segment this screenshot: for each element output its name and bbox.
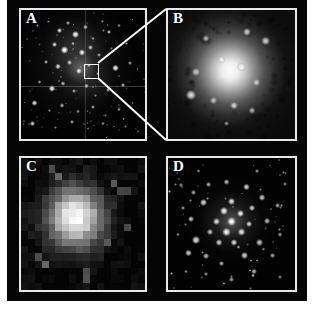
background-star bbox=[21, 26, 22, 27]
background-star bbox=[207, 192, 209, 194]
cluster-star bbox=[206, 182, 211, 187]
background-star bbox=[61, 70, 62, 71]
pixel-cell bbox=[62, 209, 69, 216]
star-point bbox=[47, 20, 50, 23]
pixel-cell bbox=[124, 268, 131, 275]
pixel-cell bbox=[138, 202, 145, 209]
background-star bbox=[26, 38, 27, 39]
pixel-cell bbox=[76, 224, 83, 231]
pixel-cell bbox=[90, 158, 97, 165]
panel-d[interactable]: D bbox=[166, 156, 297, 292]
background-star bbox=[256, 259, 259, 262]
pixel-cell bbox=[138, 268, 145, 275]
background-star bbox=[143, 50, 144, 51]
nebula-mottle bbox=[231, 125, 237, 131]
pixel-cell bbox=[35, 261, 42, 268]
nebula-mottle bbox=[257, 28, 261, 32]
star-point bbox=[87, 127, 90, 130]
pixel-cell bbox=[62, 187, 69, 194]
background-star bbox=[118, 75, 120, 77]
cluster-star bbox=[238, 228, 245, 235]
cluster-star bbox=[283, 182, 287, 186]
pixel-cell bbox=[28, 195, 35, 202]
pixel-cell bbox=[55, 275, 62, 282]
nebula-mottle bbox=[167, 104, 171, 108]
zoom-marker-box[interactable] bbox=[84, 64, 99, 79]
background-star bbox=[223, 282, 225, 284]
background-star bbox=[168, 190, 171, 193]
panel-a[interactable]: A bbox=[19, 8, 147, 141]
pixel-cell bbox=[42, 173, 49, 180]
background-star bbox=[254, 219, 256, 221]
background-star bbox=[122, 118, 124, 120]
cluster-star bbox=[197, 169, 201, 173]
nebula-mottle bbox=[265, 123, 271, 129]
pixel-cell bbox=[131, 224, 138, 231]
cluster-star bbox=[185, 250, 192, 257]
background-star bbox=[278, 228, 281, 231]
nebula-mottle bbox=[209, 25, 213, 29]
pixel-cell bbox=[124, 283, 131, 290]
pixel-cell bbox=[83, 202, 90, 209]
nebula-mottle bbox=[191, 28, 195, 32]
background-star bbox=[201, 276, 203, 278]
star-point bbox=[32, 100, 38, 106]
panel-b-image bbox=[168, 10, 295, 139]
pixel-cell bbox=[62, 195, 69, 202]
star-point bbox=[117, 24, 120, 27]
nebula-mottle bbox=[237, 17, 245, 25]
nebula-mottle bbox=[185, 48, 188, 51]
pixel-cell bbox=[21, 231, 28, 238]
pixel-cell bbox=[49, 202, 56, 209]
pixel-cell bbox=[76, 253, 83, 260]
pixel-cell bbox=[83, 283, 90, 290]
pixel-cell bbox=[90, 224, 97, 231]
background-star bbox=[70, 111, 72, 113]
star-point bbox=[112, 65, 119, 72]
pixel-cell bbox=[21, 239, 28, 246]
pixel-cell bbox=[97, 187, 104, 194]
pixel-cell bbox=[69, 283, 76, 290]
pixel-cell bbox=[62, 158, 69, 165]
pixel-cell bbox=[104, 283, 111, 290]
background-star bbox=[230, 275, 233, 278]
pixel-cell bbox=[55, 261, 62, 268]
bright-knot bbox=[253, 79, 260, 86]
pixel-cell bbox=[97, 195, 104, 202]
pixel-cell bbox=[42, 231, 49, 238]
pixel-cell bbox=[76, 283, 83, 290]
pixel-cell bbox=[76, 217, 83, 224]
pixel-cell bbox=[124, 173, 131, 180]
pixel-cell bbox=[97, 253, 104, 260]
panel-c[interactable]: C bbox=[19, 156, 147, 292]
cluster-star bbox=[256, 239, 262, 245]
background-star bbox=[269, 164, 271, 166]
cluster-star bbox=[188, 216, 194, 222]
nebula-mottle bbox=[189, 120, 197, 128]
nebula-mottle bbox=[265, 55, 269, 59]
pixel-cell bbox=[49, 283, 56, 290]
pixel-cell bbox=[28, 231, 35, 238]
pixel-cell bbox=[62, 275, 69, 282]
background-star bbox=[280, 204, 283, 207]
pixel-cell bbox=[21, 224, 28, 231]
pixel-cell bbox=[83, 165, 90, 172]
pixel-cell bbox=[83, 246, 90, 253]
cluster-star bbox=[278, 275, 282, 279]
pixel-cell bbox=[131, 209, 138, 216]
star-point bbox=[131, 102, 134, 105]
pixel-cell bbox=[62, 231, 69, 238]
pixel-cell bbox=[131, 187, 138, 194]
pixel-cell bbox=[55, 246, 62, 253]
panel-b[interactable]: B bbox=[166, 8, 297, 141]
pixel-cell bbox=[104, 268, 111, 275]
background-star bbox=[102, 29, 104, 31]
pixel-cell bbox=[83, 261, 90, 268]
pixel-cell bbox=[111, 173, 118, 180]
pixel-cell bbox=[21, 268, 28, 275]
nebula-mottle bbox=[275, 114, 279, 118]
pixel-cell bbox=[97, 165, 104, 172]
cluster-star bbox=[220, 207, 228, 215]
pixel-cell bbox=[90, 173, 97, 180]
cluster-star bbox=[219, 261, 224, 266]
